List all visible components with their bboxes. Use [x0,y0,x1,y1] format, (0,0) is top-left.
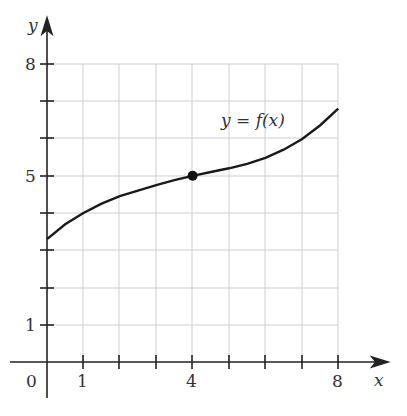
y-axis-label: y [27,15,38,35]
y-tick-5: 5 [25,166,36,186]
x-axis-label: x [374,370,384,390]
origin-label: 0 [26,371,37,391]
highlighted-point [188,171,198,181]
y-tick-1: 1 [25,315,36,335]
x-tick-1: 1 [77,371,88,391]
graph: y x 0 1 4 8 8 5 1 y = f(x) [0,0,407,416]
curve-label: y = f(x) [220,110,285,130]
grid [47,64,338,362]
x-tick-8: 8 [332,371,343,391]
x-tick-4: 4 [186,371,197,391]
axes [10,18,388,398]
y-tick-8: 8 [25,54,36,74]
